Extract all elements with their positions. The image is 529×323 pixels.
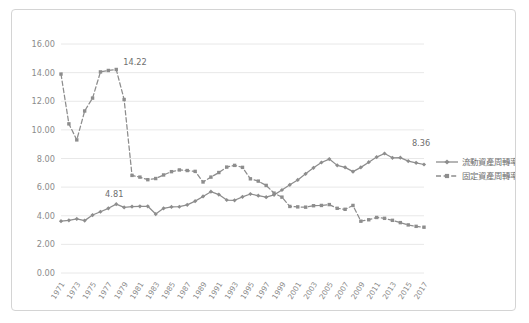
- x-axis-tick-label: 1991: [207, 280, 225, 301]
- data-point-marker: [241, 166, 244, 169]
- data-point-marker: [115, 68, 118, 71]
- annotations-group: 14.224.818.36: [105, 57, 430, 199]
- data-label-8.36: 8.36: [412, 138, 430, 148]
- data-point-marker: [280, 195, 283, 198]
- legend-marker-1: [445, 174, 449, 178]
- data-point-marker: [249, 177, 252, 180]
- data-point-marker: [233, 164, 236, 167]
- legend: 流動資產周轉率固定資產周轉率: [436, 157, 515, 181]
- y-axis-tick-label: 10.00: [32, 125, 55, 135]
- data-point-marker: [98, 210, 102, 214]
- gridlines-group: [61, 44, 424, 273]
- y-axis-tick-label: 16.00: [32, 39, 55, 49]
- data-point-marker: [296, 205, 299, 208]
- legend-label-1[interactable]: 固定資產周轉率: [462, 171, 515, 181]
- data-point-marker: [328, 203, 331, 206]
- x-axis-tick-label: 1993: [223, 280, 241, 301]
- data-point-marker: [422, 162, 426, 166]
- x-axis-tick-label: 1981: [128, 280, 146, 301]
- data-point-marker: [367, 218, 370, 221]
- data-point-marker: [91, 96, 94, 99]
- legend-label-0[interactable]: 流動資產周轉率: [462, 157, 515, 167]
- x-axis-tick-label: 2001: [286, 280, 304, 301]
- x-axis-tick-label: 1983: [144, 280, 162, 301]
- data-point-marker: [138, 175, 141, 178]
- x-axis-tick-label: 1997: [254, 280, 272, 301]
- data-point-marker: [193, 170, 196, 173]
- data-point-marker: [186, 169, 189, 172]
- y-axis-tick-label: 4.00: [37, 211, 55, 221]
- data-point-marker: [217, 171, 220, 174]
- data-point-marker: [375, 216, 378, 219]
- data-point-marker: [233, 198, 237, 202]
- data-point-marker: [130, 174, 133, 177]
- data-point-marker: [240, 195, 244, 199]
- x-axis-tick-label: 2007: [333, 280, 351, 301]
- x-axis-tick-label: 2003: [302, 280, 320, 301]
- data-point-marker: [320, 204, 323, 207]
- data-point-marker: [178, 168, 181, 171]
- data-point-marker: [422, 226, 425, 229]
- data-label-14.22: 14.22: [123, 57, 146, 67]
- x-axis-tick-label: 1999: [270, 280, 288, 301]
- y-axis-tick-label: 14.00: [32, 68, 55, 78]
- data-point-marker: [414, 161, 418, 165]
- y-axis-labels-group: 0.002.004.006.008.0010.0012.0014.0016.00: [32, 39, 55, 278]
- data-point-marker: [59, 72, 62, 75]
- y-axis-tick-label: 0.00: [37, 268, 55, 278]
- chart-frame: 0.002.004.006.008.0010.0012.0014.0016.00…: [11, 9, 516, 311]
- data-point-marker: [138, 204, 142, 208]
- y-axis-tick-label: 12.00: [32, 96, 55, 106]
- data-point-marker: [272, 191, 275, 194]
- x-axis-tick-label: 1973: [65, 280, 83, 301]
- data-point-marker: [225, 165, 228, 168]
- data-point-marker: [107, 69, 110, 72]
- data-point-marker: [59, 219, 63, 223]
- x-axis-tick-label: 2017: [412, 280, 430, 301]
- line-chart: 0.002.004.006.008.0010.0012.0014.0016.00…: [12, 10, 515, 310]
- y-axis-tick-label: 6.00: [37, 182, 55, 192]
- data-point-marker: [257, 179, 260, 182]
- data-point-marker: [406, 159, 410, 163]
- data-point-marker: [351, 204, 354, 207]
- data-point-marker: [288, 205, 291, 208]
- data-point-marker: [335, 207, 338, 210]
- data-point-marker: [398, 156, 402, 160]
- x-axis-tick-label: 2009: [349, 280, 367, 301]
- x-axis-tick-label: 1985: [160, 280, 178, 301]
- data-point-marker: [122, 98, 125, 101]
- x-axis-tick-label: 1989: [191, 280, 209, 301]
- data-point-marker: [154, 177, 157, 180]
- data-point-marker: [414, 225, 417, 228]
- data-point-marker: [304, 205, 307, 208]
- data-point-marker: [383, 217, 386, 220]
- data-point-marker: [170, 170, 173, 173]
- x-axis-tick-label: 2015: [396, 280, 414, 301]
- legend-marker-0: [444, 159, 449, 164]
- data-point-marker: [264, 184, 267, 187]
- data-point-marker: [122, 205, 126, 209]
- data-point-marker: [146, 178, 149, 181]
- x-axis-tick-label: 1987: [175, 280, 193, 301]
- data-point-marker: [343, 208, 346, 211]
- data-point-marker: [391, 219, 394, 222]
- x-axis-tick-label: 2013: [381, 280, 399, 301]
- data-point-marker: [248, 192, 252, 196]
- x-axis-tick-label: 1975: [81, 280, 99, 301]
- data-point-marker: [75, 138, 78, 141]
- x-axis-tick-label: 2005: [317, 280, 335, 301]
- data-point-marker: [209, 175, 212, 178]
- data-point-marker: [67, 218, 71, 222]
- data-point-marker: [177, 205, 181, 209]
- x-axis-tick-label: 2011: [365, 280, 383, 301]
- x-axis-tick-label: 1995: [238, 280, 256, 301]
- data-point-marker: [130, 204, 134, 208]
- y-axis-tick-label: 2.00: [37, 239, 55, 249]
- data-point-marker: [162, 173, 165, 176]
- data-point-marker: [99, 70, 102, 73]
- series-group: [59, 68, 426, 229]
- x-axis-tick-label: 1979: [112, 280, 130, 301]
- x-axis-tick-label: 1977: [96, 280, 114, 301]
- data-point-marker: [264, 195, 268, 199]
- data-point-marker: [359, 219, 362, 222]
